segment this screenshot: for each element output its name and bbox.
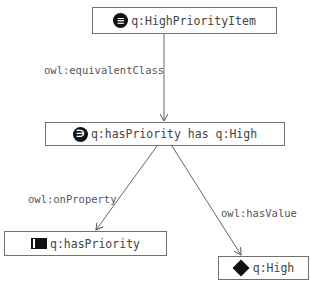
has-value-restriction-icon: ∋ [73,127,88,142]
individual-diamond-icon [232,260,249,277]
node-high-priority-item[interactable]: ≡ q:HighPriorityItem [92,7,277,34]
node-label: q:HighPriorityItem [131,14,256,28]
node-has-priority[interactable]: q:hasPriority [4,231,167,256]
edge-label-on-property: owl:onProperty [28,193,117,205]
node-label: q:hasPriority [50,237,140,251]
edge-has-value [172,146,241,255]
node-restriction[interactable]: ∋ q:hasPriority has q:High [45,122,285,146]
node-label: q:High [253,261,295,275]
equivalent-class-icon: ≡ [113,13,128,28]
node-label: q:hasPriority has q:High [91,127,257,141]
edge-on-property [96,146,157,230]
object-property-icon [31,238,47,249]
edge-label-equivalent-class: owl:equivalentClass [44,64,164,76]
node-high[interactable]: q:High [218,256,309,280]
edge-label-has-value: owl:hasValue [221,207,297,219]
